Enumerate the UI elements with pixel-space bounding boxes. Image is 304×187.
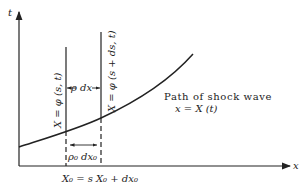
shock-wave-equation: x = X (t) <box>175 103 218 114</box>
rho-dx-label: ρ dx <box>70 82 92 93</box>
shock-wave-diagram: t x X = φ (s, t) X = φ (s + ds, t) ρ dx … <box>0 0 304 187</box>
t-axis-label: t <box>8 7 13 18</box>
x0-s-label: X₀ = s <box>61 173 93 184</box>
x0-dx0-label: X₀ + dx₀ <box>95 173 138 184</box>
x-axis-label: x <box>293 160 299 171</box>
shock-wave-label: Path of shock wave <box>164 91 272 102</box>
particle-path-s-ds-label: X = φ (s + ds, t) <box>106 30 117 113</box>
rho0-dx0-label: ρ₀ dx₀ <box>67 151 97 162</box>
particle-path-s-label: X = φ (s, t) <box>52 73 63 129</box>
